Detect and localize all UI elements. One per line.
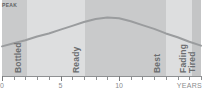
axis-tick [61, 76, 62, 81]
wine-aging-chart: PEAK BottledReadyBestFadingTired 0510 YE… [0, 0, 203, 92]
axis-tick [119, 76, 120, 81]
axis-tick [178, 76, 179, 80]
axis-tick [84, 76, 85, 80]
axis-tick [107, 76, 108, 80]
peak-label: PEAK [2, 2, 17, 9]
band-label-tired: Tired [188, 51, 197, 73]
axis-tick [131, 76, 132, 80]
axis-tick [201, 76, 202, 80]
axis-tick-label: 0 [0, 82, 4, 90]
band-label-best: Best [153, 54, 162, 73]
curve-path [2, 17, 201, 46]
axis-tick [49, 76, 50, 80]
axis-tick [2, 76, 3, 81]
axis-tick [189, 76, 190, 80]
axis-tick [154, 76, 155, 80]
axis-tick [72, 76, 73, 80]
axis-tick-label: 10 [115, 82, 123, 90]
axis-tick [37, 76, 38, 80]
x-axis: 0510 YEARS [0, 76, 203, 92]
axis-tick [14, 76, 15, 80]
plot-area: PEAK BottledReadyBestFadingTired [0, 0, 203, 76]
axis-tick [166, 76, 167, 80]
axis-tick [25, 76, 26, 80]
drinkability-curve [0, 0, 203, 76]
axis-tick [96, 76, 97, 80]
axis-tick [142, 76, 143, 80]
band-label-ready: Ready [72, 46, 81, 73]
band-label-bottled: Bottled [14, 42, 23, 73]
x-axis-title: YEARS [177, 82, 202, 90]
axis-tick-label: 5 [59, 82, 63, 90]
axis-line [2, 76, 201, 77]
